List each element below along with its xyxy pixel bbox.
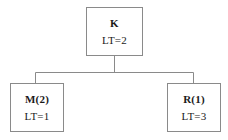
node-left-child: M(2) LT=1 bbox=[10, 83, 64, 132]
node-right-child-label: R(1) bbox=[183, 92, 205, 106]
node-left-child-value: LT=1 bbox=[25, 109, 50, 123]
node-root-value: LT=2 bbox=[102, 33, 127, 47]
node-root-label: K bbox=[110, 16, 119, 30]
node-left-child-label: M(2) bbox=[25, 92, 49, 106]
node-root: K LT=2 bbox=[86, 7, 143, 56]
node-right-child: R(1) LT=3 bbox=[167, 83, 221, 132]
tree-diagram: K LT=2 M(2) LT=1 R(1) LT=3 bbox=[0, 0, 228, 140]
node-right-child-value: LT=3 bbox=[182, 109, 207, 123]
